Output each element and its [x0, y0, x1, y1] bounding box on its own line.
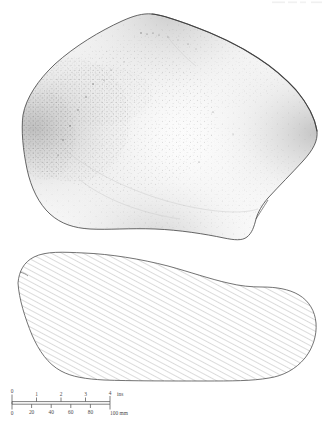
scale-label-in-0: 0 — [11, 388, 14, 394]
scale-label-mm-0: 0 — [11, 410, 14, 416]
scale-label-mm-60: 60 — [68, 409, 74, 415]
header-fragment — [272, 2, 322, 4]
scale-label-in-1: 1 — [35, 391, 38, 397]
scale-label-mm-80: 80 — [88, 409, 94, 415]
scale-label-in-4: 4 — [109, 390, 112, 396]
scale-label-mm-40: 40 — [49, 409, 55, 415]
illustration-plate: 0 1 2 3 4 ins 0 20 40 60 80 100 mm — [0, 0, 331, 422]
figure-canvas: 0 1 2 3 4 ins 0 20 40 60 80 100 mm — [0, 0, 331, 422]
scale-unit-mm: 100 mm — [110, 410, 129, 416]
scale-label-mm-20: 20 — [29, 409, 35, 415]
scale-label-in-2: 2 — [60, 391, 63, 397]
scale-label-in-3: 3 — [84, 391, 87, 397]
scale-unit-inches: ins — [117, 391, 123, 397]
